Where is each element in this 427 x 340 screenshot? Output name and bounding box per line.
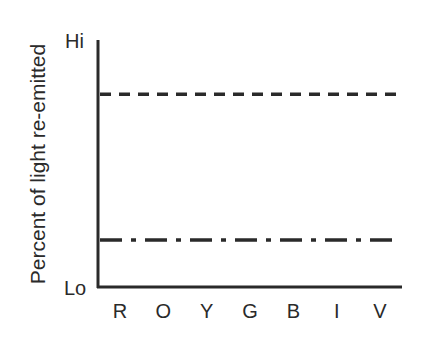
y-axis-label: Percent of light re-emitted [26, 44, 49, 284]
x-tick-label: V [373, 300, 387, 322]
x-tick-label: G [242, 300, 258, 322]
x-tick-label: I [334, 300, 340, 322]
chart: Percent of light re-emitted Hi Lo ROYGBI… [0, 0, 427, 340]
y-tick-lo: Lo [64, 277, 86, 299]
x-tick-label: R [113, 300, 127, 322]
x-tick-label: Y [200, 300, 213, 322]
x-tick-label: O [156, 300, 172, 322]
y-tick-hi: Hi [65, 30, 84, 52]
x-tick-label: B [287, 300, 300, 322]
